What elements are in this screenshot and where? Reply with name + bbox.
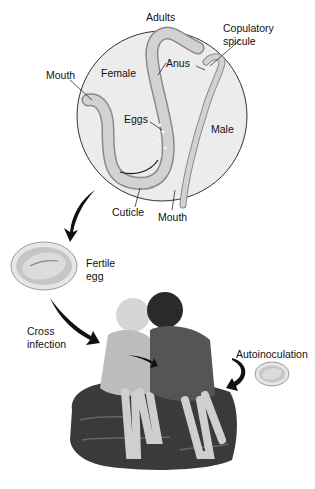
label-autoinoculation: Autoinoculation <box>236 348 308 360</box>
label-mouth-female: Mouth <box>46 69 75 81</box>
label-cuticle: Cuticle <box>112 206 144 218</box>
label-eggs: Eggs <box>124 113 148 125</box>
label-cross-infection-2: infection <box>27 338 66 350</box>
arrow-autoinoculation <box>226 358 245 391</box>
label-male: Male <box>211 123 234 135</box>
label-cross-infection-1: Cross <box>27 325 54 337</box>
children-illustration <box>70 292 237 470</box>
fertile-egg <box>11 242 77 290</box>
label-female: Female <box>101 67 136 79</box>
label-copulatory-spicule-2: spicule <box>223 35 256 47</box>
autoinoculation-egg <box>255 362 289 386</box>
girl-body <box>100 330 158 396</box>
boy-head <box>147 292 183 328</box>
label-fertile-egg-2: egg <box>86 270 104 282</box>
label-adults: Adults <box>146 11 175 23</box>
boy-body <box>150 326 215 401</box>
label-anus: Anus <box>166 57 190 69</box>
arrow-adults-to-egg <box>64 190 95 242</box>
adults-circle <box>77 31 247 205</box>
label-mouth-male: Mouth <box>158 211 187 223</box>
girl-head <box>116 298 150 332</box>
label-fertile-egg-1: Fertile <box>86 257 115 269</box>
label-copulatory-spicule-1: Copulatory <box>223 22 274 34</box>
